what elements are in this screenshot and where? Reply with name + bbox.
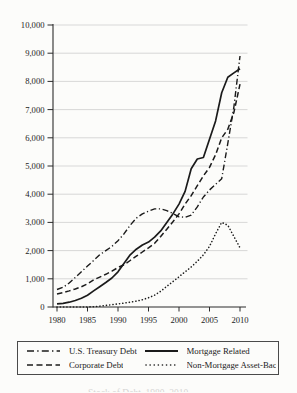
figure-page: 01,0002,0003,0004,0005,0006,0007,0008,00…	[0, 0, 297, 393]
legend-label-mortgage-related: Mortgage Related	[187, 346, 250, 356]
legend-label-us-treasury-debt: U.S. Treasury Debt	[69, 346, 137, 356]
y-tick-label: 4,000	[25, 189, 44, 199]
y-tick-label: 2,000	[25, 246, 44, 256]
x-tick-label: 1985	[79, 315, 96, 325]
series-line-corporate-debt	[57, 84, 240, 294]
y-tick-label: 1,000	[25, 274, 44, 284]
y-tick-label: 3,000	[25, 217, 44, 227]
legend-label-non-mortgage-asset-backed: Non-Mortgage Asset-Backed	[187, 360, 277, 370]
y-tick-label: 9,000	[25, 48, 44, 58]
dashed-line-sample-icon	[26, 361, 61, 369]
solid-line-sample-icon	[144, 347, 179, 355]
legend-item-us-treasury-debt: U.S. Treasury Debt	[26, 346, 144, 356]
y-tick-label: 7,000	[25, 105, 44, 115]
axes	[48, 24, 247, 312]
legend-item-mortgage-related: Mortgage Related	[144, 346, 277, 356]
cut-off-caption: Stock of Debt, 1980–2010	[88, 387, 273, 392]
y-tick-label: 10,000	[21, 20, 45, 30]
y-tick-label: 5,000	[25, 161, 44, 171]
series-line-u-s-treasury-debt	[57, 56, 240, 290]
x-tick-label: 2000	[170, 315, 187, 325]
x-tick-labels: 1980198519901995200020052010	[48, 315, 248, 325]
x-tick-label: 1980	[48, 315, 65, 325]
chart-area: 01,0002,0003,0004,0005,0006,0007,0008,00…	[0, 0, 297, 342]
x-tick-label: 1995	[140, 315, 157, 325]
chart-svg: 01,0002,0003,0004,0005,0006,0007,0008,00…	[0, 0, 297, 338]
y-tick-labels: 01,0002,0003,0004,0005,0006,0007,0008,00…	[21, 20, 45, 312]
x-tick-label: 1990	[109, 315, 126, 325]
caption-text-fragment: Stock of Debt, 1980–2010	[88, 387, 273, 392]
dotted-line-sample-icon	[144, 361, 179, 369]
series-line-non-mortgage-asset-backed	[57, 222, 240, 307]
y-tick-label: 6,000	[25, 133, 44, 143]
y-tick-label: 8,000	[25, 76, 44, 86]
x-tick-label: 2010	[231, 315, 248, 325]
legend-item-non-mortgage-asset-backed: Non-Mortgage Asset-Backed	[144, 360, 277, 370]
x-tick-label: 2005	[201, 315, 218, 325]
legend-item-corporate-debt: Corporate Debt	[26, 360, 144, 370]
legend: U.S. Treasury Debt Mortgage Related Corp…	[17, 341, 279, 375]
dash-dot-line-sample-icon	[26, 347, 61, 355]
legend-label-corporate-debt: Corporate Debt	[69, 360, 123, 370]
y-tick-label: 0	[40, 302, 44, 312]
